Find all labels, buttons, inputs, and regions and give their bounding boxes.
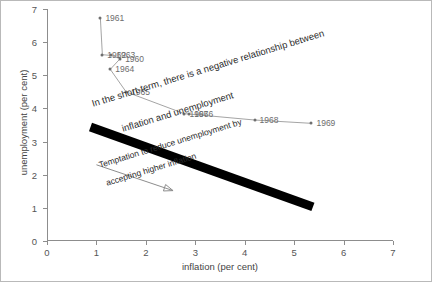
- data-point: [119, 57, 122, 60]
- data-point: [110, 54, 113, 57]
- data-point: [99, 17, 102, 20]
- data-point-label: 1964: [115, 64, 134, 74]
- data-point: [109, 68, 112, 71]
- y-tick: [43, 241, 47, 242]
- x-tick-label: 6: [341, 247, 346, 258]
- x-tick: [195, 241, 196, 245]
- x-tick-label: 3: [193, 247, 198, 258]
- x-tick: [393, 241, 394, 245]
- x-tick: [245, 241, 246, 245]
- data-point-label: 1961: [105, 13, 124, 23]
- plot-area: 01234567 01234567 1961196219631960196419…: [47, 9, 393, 241]
- x-tick: [146, 241, 147, 245]
- temptation-arrow-head: [163, 185, 173, 191]
- x-tick-label: 7: [390, 247, 395, 258]
- x-tick-label: 5: [291, 247, 296, 258]
- y-tick-label: 5: [32, 70, 37, 81]
- x-tick: [294, 241, 295, 245]
- x-tick: [344, 241, 345, 245]
- x-tick: [47, 241, 48, 245]
- data-point-label: 1960: [125, 54, 144, 64]
- y-tick-label: 0: [32, 236, 37, 247]
- trend-line: [90, 127, 312, 207]
- y-tick-label: 2: [32, 169, 37, 180]
- x-tick-label: 0: [44, 247, 49, 258]
- y-tick-label: 1: [32, 202, 37, 213]
- chart-frame: unemployment (per cent) 01234567 0123456…: [0, 0, 432, 282]
- data-point: [310, 122, 313, 125]
- x-tick-label: 4: [242, 247, 247, 258]
- data-point-label: 1969: [316, 118, 335, 128]
- x-tick-label: 1: [94, 247, 99, 258]
- y-tick-label: 7: [32, 4, 37, 15]
- data-point-label: 1968: [260, 115, 279, 125]
- data-point: [101, 53, 104, 56]
- x-axis-label: inflation (per cent): [47, 261, 393, 272]
- y-axis-label-container: unemployment (per cent): [9, 1, 23, 241]
- y-axis-label: unemployment (per cent): [18, 23, 29, 223]
- y-tick-label: 3: [32, 136, 37, 147]
- x-tick-label: 2: [143, 247, 148, 258]
- data-point: [253, 119, 256, 122]
- x-tick: [96, 241, 97, 245]
- y-tick-label: 4: [32, 103, 37, 114]
- y-tick-label: 6: [32, 37, 37, 48]
